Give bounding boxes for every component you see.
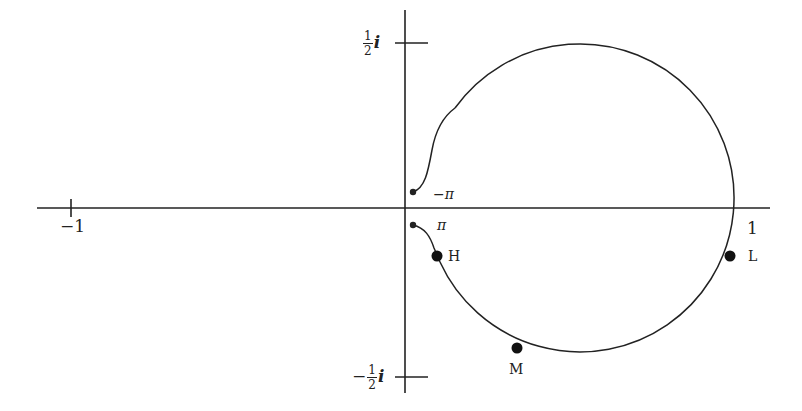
fraction-numerator: 1: [363, 30, 373, 44]
label-real-1: 1: [747, 220, 758, 237]
label-real-minus-1: −1: [60, 218, 85, 235]
label-imag-minus-half-prefix: −: [352, 366, 366, 386]
point-L: [725, 251, 736, 262]
label-pi: π: [437, 218, 446, 232]
nyquist-diagram: [0, 0, 802, 411]
point-M: [512, 343, 523, 354]
fraction-denominator: 2: [368, 378, 376, 391]
label-H: H: [448, 249, 460, 263]
fraction-half: 12: [363, 30, 373, 57]
label-M: M: [509, 362, 523, 376]
fraction-denominator: 2: [364, 44, 372, 57]
curve-circle: [440, 44, 734, 352]
label-imag-minus-half-unit: i: [378, 366, 384, 386]
label-L: L: [748, 249, 757, 263]
label-imag-half-unit: i: [374, 32, 380, 52]
label-minus-pi: −π: [433, 187, 454, 201]
point-H: [432, 251, 443, 262]
point-start-minus-pi: [410, 189, 416, 195]
fraction-numerator: 1: [367, 364, 377, 378]
curve-upper-branch: [413, 108, 455, 192]
fraction-half: 12: [367, 364, 377, 391]
point-start-pi: [410, 222, 416, 228]
label-imag-half: 12i: [362, 30, 380, 57]
label-imag-minus-half: −12i: [352, 364, 384, 391]
